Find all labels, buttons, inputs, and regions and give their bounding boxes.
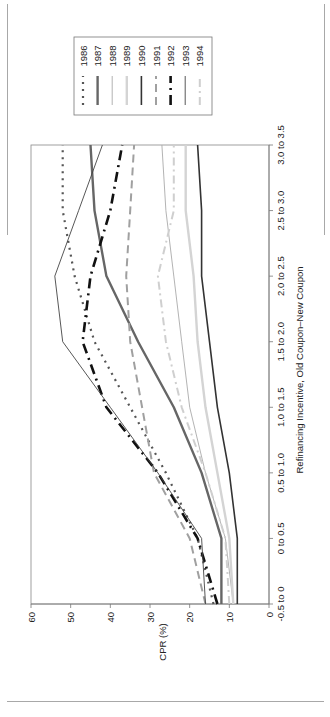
y-tick-label: 30 — [145, 612, 156, 623]
x-tick-label: 3.0 to 3.5 — [275, 125, 286, 165]
x-axis-title: Refinancing Incentive, Old Coupon–New Co… — [294, 266, 305, 473]
x-tick-label: 0 to 0.5 — [275, 523, 286, 555]
series-line-1994 — [158, 145, 229, 604]
plot-area — [31, 145, 269, 604]
x-tick-label: -0.5 to 0 — [275, 587, 286, 622]
x-tick-label: 2.0 to 2.5 — [275, 256, 286, 296]
y-tick-label: 50 — [65, 612, 76, 623]
y-tick-label: 0 — [264, 612, 275, 617]
legend-label-1989: 1989 — [121, 45, 132, 66]
y-axis: 0102030405060 — [26, 604, 275, 623]
series-layer — [55, 145, 238, 604]
legend-label-1988: 1988 — [107, 45, 118, 66]
legend-label-1992: 1992 — [165, 45, 176, 66]
legend-label-1991: 1991 — [151, 45, 162, 66]
plot-frame — [31, 145, 269, 604]
x-tick-label: 0.5 to 1.0 — [275, 453, 286, 493]
y-tick-label: 10 — [224, 612, 235, 623]
x-tick-label: 2.5 to 3.0 — [275, 191, 286, 231]
legend-label-1994: 1994 — [194, 45, 205, 66]
legend-label-1993: 1993 — [180, 45, 191, 66]
y-tick-label: 20 — [184, 612, 195, 623]
series-line-1990 — [198, 145, 238, 604]
legend-label-1987: 1987 — [92, 45, 103, 66]
series-line-1986 — [63, 145, 214, 604]
chart: 0102030405060 -0.5 to 00 to 0.50.5 to 1.… — [0, 0, 330, 717]
legend: 198619871988198919901991199219931994 — [74, 37, 212, 115]
y-axis-title: CPR (%) — [157, 623, 168, 660]
y-tick-label: 60 — [26, 612, 37, 623]
legend-label-1990: 1990 — [136, 45, 147, 66]
legend-label-1986: 1986 — [78, 45, 89, 66]
series-line-1989 — [186, 145, 234, 604]
x-tick-label: 1.0 to 1.5 — [275, 387, 286, 427]
x-tick-label: 1.5 to 2.0 — [275, 322, 286, 362]
y-tick-label: 40 — [105, 612, 116, 623]
x-axis: -0.5 to 00 to 0.50.5 to 1.01.0 to 1.51.5… — [269, 125, 286, 621]
